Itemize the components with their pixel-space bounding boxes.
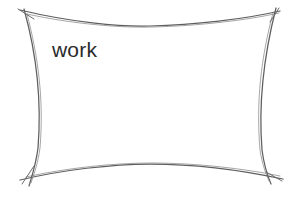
sketch-canvas[interactable]: work — [0, 0, 300, 198]
canvas-background — [0, 0, 300, 198]
work-text-label[interactable]: work — [52, 39, 97, 60]
sketch-drawing[interactable] — [0, 0, 300, 198]
